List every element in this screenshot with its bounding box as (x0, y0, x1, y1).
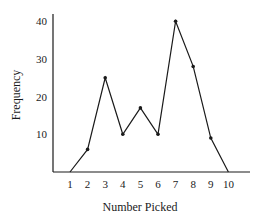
data-point (191, 65, 195, 69)
data-point (86, 148, 90, 152)
x-tick-label: 4 (120, 178, 126, 190)
x-tick-label: 7 (173, 178, 179, 190)
data-point (174, 19, 178, 23)
x-tick-label: 2 (85, 178, 91, 190)
axes (53, 14, 250, 172)
x-tick-label: 10 (223, 178, 235, 190)
x-tick-label: 3 (102, 178, 108, 190)
x-tick-label: 1 (67, 178, 73, 190)
data-point-markers (86, 19, 213, 151)
data-point (156, 133, 160, 137)
frequency-line (70, 21, 228, 172)
x-tick-label: 9 (208, 178, 214, 190)
data-point (139, 106, 143, 110)
data-point (121, 133, 125, 137)
x-tick-label: 8 (190, 178, 196, 190)
y-tick-label: 20 (36, 91, 48, 103)
y-axis-title: Frequency (9, 70, 23, 121)
x-axis-title: Number Picked (103, 200, 178, 214)
x-tick-label: 5 (138, 178, 144, 190)
line-chart: 10203040 12345678910 Frequency Number Pi… (0, 0, 264, 222)
y-tick-label: 10 (36, 128, 48, 140)
x-tick-labels: 12345678910 (67, 178, 234, 190)
x-tick-label: 6 (155, 178, 161, 190)
y-tick-label: 40 (36, 15, 48, 27)
y-tick-labels: 10203040 (36, 15, 48, 140)
data-point (103, 76, 107, 80)
data-point (209, 136, 213, 140)
y-tick-label: 30 (36, 53, 48, 65)
